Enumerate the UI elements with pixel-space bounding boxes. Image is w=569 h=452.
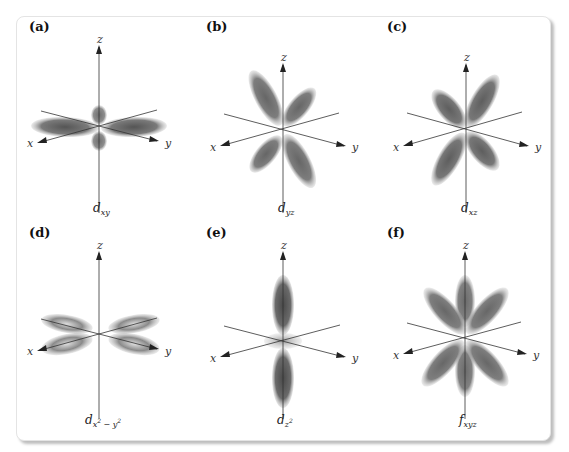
- caption-dxz: dxz: [461, 201, 477, 217]
- panel-dyz: (b) z x y dyz: [194, 17, 380, 223]
- panel-fxyz: (f) z x y fx: [375, 223, 561, 429]
- orbital-fxyz-diagram: z x y: [375, 223, 561, 439]
- caption-dz2: dz2: [277, 413, 293, 429]
- caption-dx2-y2: dx2 − y2: [85, 413, 121, 429]
- caption-fxyz: fxyz: [459, 413, 477, 429]
- y-axis-label: y: [164, 345, 172, 358]
- panel-dx2-y2: (d) z x y dx2 − y2: [17, 223, 203, 429]
- z-axis-label: z: [96, 239, 103, 252]
- panel-dz2: (e) z x y: [194, 223, 380, 429]
- y-axis-label: y: [534, 141, 542, 154]
- orbital-dxy-diagram: z x y: [17, 17, 203, 223]
- y-axis-label: y: [532, 349, 540, 362]
- z-axis-label: z: [280, 51, 287, 64]
- z-axis-label: z: [96, 33, 103, 46]
- x-axis-label: x: [27, 137, 34, 150]
- x-axis-label: x: [27, 345, 34, 358]
- y-axis-label: y: [164, 137, 172, 150]
- x-axis-label: x: [210, 352, 217, 365]
- x-axis-label: x: [393, 141, 400, 154]
- z-axis-label: z: [462, 239, 469, 252]
- y-axis-label: y: [351, 352, 359, 365]
- orbital-dyz-diagram: z x y: [194, 17, 380, 223]
- panel-dxy: (a) z x y dx: [17, 17, 203, 223]
- x-axis-label: x: [210, 141, 217, 154]
- orbital-dz2-diagram: z x y: [194, 223, 380, 439]
- z-axis-label: z: [280, 239, 287, 252]
- y-axis-label: y: [351, 141, 359, 154]
- panel-dxz: (c) z x y dxz: [375, 17, 561, 223]
- z-axis-label: z: [463, 51, 470, 64]
- caption-dyz: dyz: [278, 201, 294, 217]
- caption-dxy: dxy: [93, 201, 110, 217]
- orbital-dx2-y2-diagram: z x y: [17, 223, 203, 439]
- figure-card: (a) z x y dx: [16, 16, 551, 441]
- x-axis-label: x: [393, 349, 400, 362]
- orbital-dxz-diagram: z x y: [375, 17, 561, 223]
